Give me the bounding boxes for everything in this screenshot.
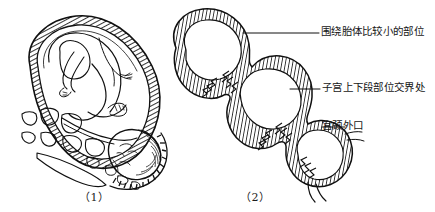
label-upper-lower-segment-junction: 子宫上下段部位交界处 <box>322 82 425 93</box>
label-external-cervical-os: 宫颈外口 <box>322 120 363 131</box>
caption-panel-2: （2） <box>240 188 271 204</box>
label-surrounding-small-fetal-part: 围绕胎体比较小的部位 <box>321 26 424 37</box>
obstetric-figure: 围绕胎体比较小的部位 子宫上下段部位交界处 宫颈外口 （1） （2） <box>0 0 435 212</box>
caption-panel-1: （1） <box>79 188 110 204</box>
